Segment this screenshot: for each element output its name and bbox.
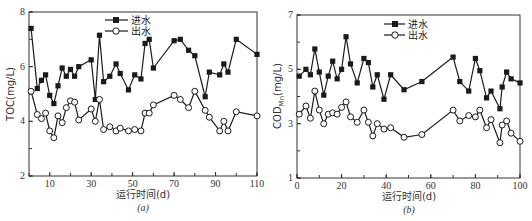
data-point — [217, 128, 223, 134]
data-point — [508, 76, 513, 81]
data-point — [107, 74, 112, 79]
data-point — [297, 74, 302, 79]
data-point — [207, 70, 212, 75]
data-point — [316, 107, 322, 113]
data-point — [126, 87, 131, 92]
data-point — [202, 107, 208, 113]
data-point — [146, 110, 152, 116]
data-point — [206, 114, 212, 120]
x-tick-label: 40 — [381, 180, 391, 191]
data-point — [339, 67, 344, 72]
data-point — [308, 72, 313, 77]
y-axis-title: CODMn(mg/L) — [272, 63, 286, 129]
data-point — [171, 92, 177, 98]
data-point — [330, 59, 335, 64]
legend-label-influent: 进水 — [408, 19, 428, 30]
figure: 10305070901102468 进水 出水 TOC(mg/L) 运行时间(d… — [0, 0, 532, 221]
data-point — [68, 67, 73, 72]
data-point — [113, 61, 118, 66]
data-point — [192, 53, 197, 58]
data-point — [303, 67, 308, 72]
data-point — [296, 111, 302, 117]
data-point — [225, 70, 230, 75]
data-point — [355, 80, 360, 85]
y-tick-label: 4 — [20, 115, 25, 126]
data-point — [59, 120, 65, 126]
data-point — [326, 74, 331, 79]
data-point — [500, 84, 505, 89]
data-point — [28, 26, 33, 31]
data-point — [221, 61, 226, 66]
x-tick-label: 30 — [86, 178, 96, 189]
data-point — [132, 127, 138, 133]
data-point — [517, 80, 522, 85]
data-point — [254, 113, 260, 119]
data-point — [132, 72, 137, 77]
data-point — [47, 128, 53, 134]
data-point — [125, 128, 131, 134]
data-point — [366, 60, 371, 65]
data-point — [72, 99, 78, 105]
data-point — [38, 116, 44, 122]
data-point — [63, 105, 69, 111]
legend-label-effluent: 出水 — [131, 25, 151, 37]
data-point — [348, 114, 354, 120]
data-point — [55, 113, 61, 119]
data-point — [451, 55, 456, 60]
data-point — [312, 88, 318, 94]
data-point — [43, 110, 49, 116]
legend-label-effluent: 出水 — [408, 29, 428, 41]
data-point — [171, 38, 176, 43]
data-point — [466, 88, 471, 93]
filled-square-icon — [392, 21, 398, 27]
data-point — [488, 88, 493, 93]
data-point — [221, 118, 227, 124]
data-point — [517, 138, 523, 144]
y-axis-title: TOC(mg/L) — [5, 67, 16, 122]
data-point — [192, 88, 198, 94]
x-tick-label: 70 — [169, 178, 179, 189]
x-tick-label: 60 — [426, 180, 436, 191]
data-point — [477, 68, 482, 73]
chart-panel-b: 0204060801001357 进水 出水 CODMn(mg/L) 运行时间(… — [272, 9, 528, 216]
data-point — [466, 113, 472, 119]
data-point — [51, 135, 57, 141]
data-point — [254, 52, 259, 57]
data-point — [473, 56, 478, 61]
data-point — [303, 103, 309, 109]
data-point — [76, 64, 81, 69]
data-point — [354, 119, 360, 125]
data-point — [203, 94, 208, 99]
data-point — [60, 65, 65, 70]
data-point — [484, 125, 490, 131]
y-tick-label: 7 — [288, 9, 293, 20]
data-point — [375, 72, 380, 77]
data-point — [388, 125, 394, 131]
data-point — [186, 48, 191, 53]
data-point — [55, 83, 60, 88]
data-point — [504, 118, 510, 124]
data-point — [374, 121, 380, 127]
x-tick-label: 110 — [250, 178, 265, 189]
x-tick-label: 100 — [513, 180, 528, 191]
data-point — [321, 121, 327, 127]
data-point — [92, 118, 98, 124]
data-point — [76, 117, 82, 123]
data-point — [28, 88, 34, 94]
x-tick-label: 20 — [337, 180, 347, 191]
data-point — [151, 65, 156, 70]
data-point — [150, 102, 156, 108]
data-point — [35, 86, 40, 91]
data-point — [307, 115, 313, 121]
data-point — [401, 87, 406, 92]
data-point — [348, 61, 353, 66]
data-series — [28, 26, 260, 141]
panel-label: (a) — [137, 202, 149, 214]
data-point — [225, 128, 231, 134]
data-point — [233, 109, 239, 115]
x-tick-label: 90 — [211, 178, 221, 189]
data-point — [177, 96, 183, 102]
data-point — [118, 71, 123, 76]
open-circle-icon — [113, 28, 119, 34]
x-axis-title: 运行时间(d) — [382, 190, 436, 202]
